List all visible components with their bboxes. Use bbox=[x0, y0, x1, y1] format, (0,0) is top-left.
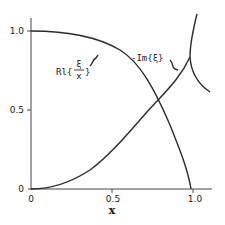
im-curve bbox=[31, 57, 190, 189]
x-tick-label-05: 0.5 bbox=[106, 194, 120, 204]
chart: 1.0 0.5 0 0 0.5 1.0 x Rl{ ξ x } -Im{ξ} bbox=[0, 0, 225, 225]
x-axis-title: x bbox=[109, 204, 116, 217]
branch-curve bbox=[190, 14, 210, 92]
re-close: } bbox=[85, 67, 90, 77]
x-tick-label-1: 1.0 bbox=[188, 194, 203, 204]
im-label: -Im{ξ} bbox=[131, 53, 164, 63]
re-annotation: Rl{ ξ x } bbox=[56, 55, 98, 81]
re-leader bbox=[90, 55, 98, 66]
y-tick-label-0: 0 bbox=[18, 184, 24, 194]
re-prefix: Rl{ bbox=[56, 67, 72, 77]
re-denominator: x bbox=[76, 71, 82, 81]
re-numerator: ξ bbox=[76, 59, 81, 69]
y-tick-label-05: 0.5 bbox=[10, 105, 24, 115]
x-tick-label-0: 0 bbox=[28, 194, 34, 204]
y-tick-label-1: 1.0 bbox=[10, 26, 25, 36]
re-curve bbox=[31, 31, 191, 189]
im-leader bbox=[170, 60, 178, 70]
